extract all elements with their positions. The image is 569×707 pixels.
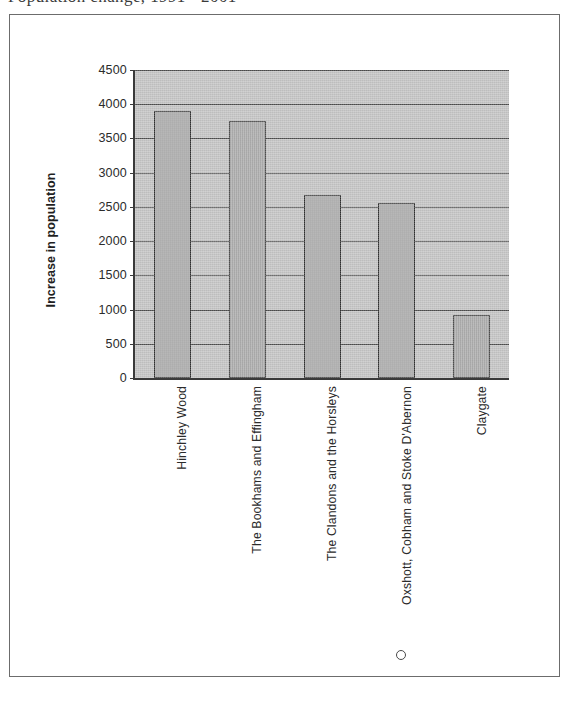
x-axis-label: Claygate [475, 386, 489, 435]
y-axis-tick-label: 0 [120, 371, 127, 385]
y-axis-tick-label: 3000 [98, 166, 127, 180]
y-axis-tick-mark [130, 70, 135, 71]
y-axis-tick-mark [130, 241, 135, 242]
y-axis-tick-label: 1000 [98, 303, 127, 317]
x-axis-label: Oxshott, Cobham and Stoke D'Abernon [400, 386, 414, 605]
y-axis-tick-mark [130, 207, 135, 208]
y-axis-tick-label: 3500 [98, 131, 127, 145]
y-axis-tick-mark [130, 173, 135, 174]
y-axis-tick-label: 2000 [98, 234, 127, 248]
gridline [135, 104, 509, 105]
gridline [135, 70, 509, 71]
y-axis-tick-label: 4000 [98, 97, 127, 111]
y-axis-tick-mark [130, 104, 135, 105]
bar-chart: Increase in population 05001000150020002… [0, 0, 569, 707]
y-axis-tick-mark [130, 310, 135, 311]
y-axis-tick-label: 500 [106, 337, 127, 351]
bar [154, 111, 191, 378]
x-axis-label: Hinchley Wood [175, 386, 189, 470]
gridline [135, 138, 509, 139]
y-axis-tick-mark [130, 138, 135, 139]
y-axis-title: Increase in population [44, 150, 60, 330]
gridline [135, 173, 509, 174]
x-axis-label: The Clandons and the Horsleys [325, 386, 339, 561]
bar [378, 203, 415, 378]
x-axis-label: The Bookhams and Effingham [250, 386, 264, 554]
y-axis-tick-label: 1500 [98, 268, 127, 282]
y-axis-tick-label: 4500 [98, 63, 127, 77]
y-axis-tick-mark [130, 344, 135, 345]
y-axis-tick-mark [130, 275, 135, 276]
bar [304, 195, 341, 378]
y-axis-tick-mark [130, 378, 135, 379]
plot-area: 050010001500200025003000350040004500 [133, 70, 509, 380]
y-axis-tick-label: 2500 [98, 200, 127, 214]
bar [229, 121, 266, 378]
bar [453, 315, 490, 378]
